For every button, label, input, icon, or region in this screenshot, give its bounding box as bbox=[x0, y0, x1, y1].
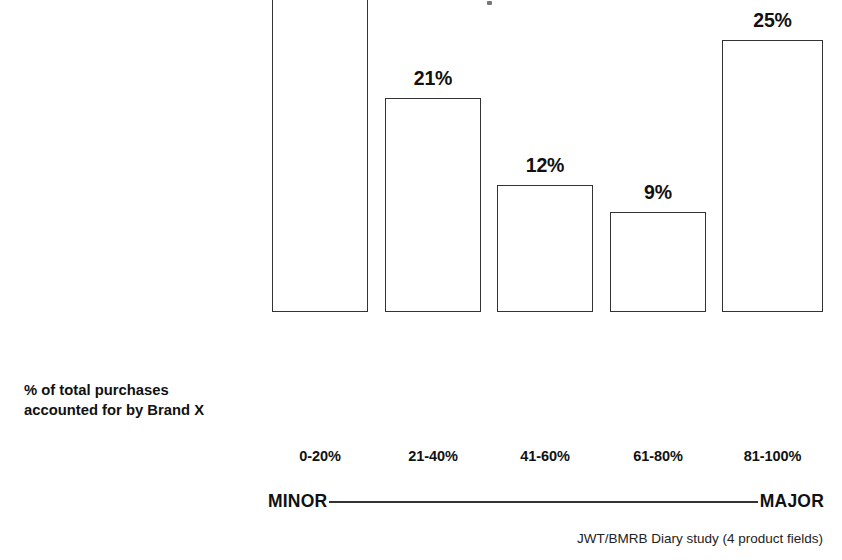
bar-value-label: 21% bbox=[385, 67, 481, 90]
bar bbox=[722, 40, 823, 312]
scale-connector-line bbox=[329, 501, 757, 503]
bar-group-2: 12% bbox=[497, 185, 593, 312]
category-label-4: 81-100% bbox=[722, 448, 823, 464]
plot-area: 33% 21% 12% 9% 25% bbox=[0, 0, 842, 440]
axis-caption: % of total purchases accounted for by Br… bbox=[24, 380, 254, 420]
minor-major-scale: MINOR MAJOR bbox=[268, 488, 824, 514]
bar-chart-figure: 33% 21% 12% 9% 25% 0-20% 21-40% 41-60% 6… bbox=[0, 0, 842, 560]
category-label-0: 0-20% bbox=[272, 448, 368, 464]
scale-label-minor: MINOR bbox=[268, 491, 327, 512]
bar-value-label: 25% bbox=[722, 9, 823, 32]
bar-group-0: 33% bbox=[272, 0, 368, 312]
category-label-3: 61-80% bbox=[610, 448, 706, 464]
scale-label-major: MAJOR bbox=[760, 491, 824, 512]
bar-value-label: 12% bbox=[497, 154, 593, 177]
bar bbox=[497, 185, 593, 312]
bar bbox=[385, 98, 481, 312]
source-credit: JWT/BMRB Diary study (4 product fields) bbox=[577, 531, 823, 546]
axis-caption-line-2: accounted for by Brand X bbox=[24, 400, 254, 420]
bar-value-label: 9% bbox=[610, 181, 706, 204]
bar bbox=[610, 212, 706, 312]
bar-group-4: 25% bbox=[722, 40, 823, 312]
bar bbox=[272, 0, 368, 312]
bar-group-1: 21% bbox=[385, 98, 481, 312]
category-label-1: 21-40% bbox=[385, 448, 481, 464]
category-label-2: 41-60% bbox=[497, 448, 593, 464]
axis-caption-line-1: % of total purchases bbox=[24, 380, 254, 400]
bar-group-3: 9% bbox=[610, 212, 706, 312]
